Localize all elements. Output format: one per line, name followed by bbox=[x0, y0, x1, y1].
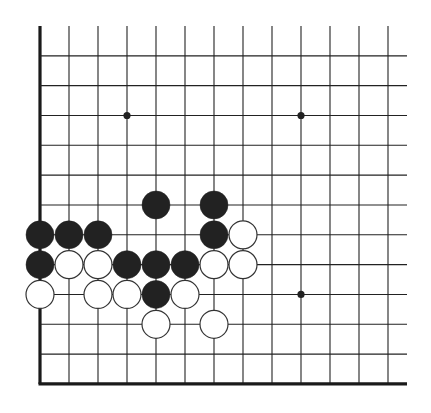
white-stone bbox=[26, 280, 54, 308]
white-stone bbox=[113, 280, 141, 308]
star-point-icon bbox=[297, 291, 304, 298]
star-point-icon bbox=[297, 112, 304, 119]
black-stone bbox=[55, 221, 83, 249]
white-stone bbox=[142, 310, 170, 338]
black-stone bbox=[171, 251, 199, 279]
black-stone bbox=[113, 251, 141, 279]
go-board bbox=[0, 0, 431, 413]
star-point-icon bbox=[123, 112, 130, 119]
black-stone bbox=[142, 191, 170, 219]
white-stone bbox=[84, 251, 112, 279]
black-stone bbox=[200, 191, 228, 219]
black-stone bbox=[26, 251, 54, 279]
black-stone bbox=[142, 280, 170, 308]
white-stone bbox=[171, 280, 199, 308]
white-stone bbox=[200, 310, 228, 338]
white-stone bbox=[55, 251, 83, 279]
black-stone bbox=[84, 221, 112, 249]
white-stone bbox=[229, 251, 257, 279]
black-stone bbox=[142, 251, 170, 279]
white-stone bbox=[229, 221, 257, 249]
black-stone bbox=[26, 221, 54, 249]
black-stone bbox=[200, 221, 228, 249]
white-stone bbox=[84, 280, 112, 308]
white-stone bbox=[200, 251, 228, 279]
